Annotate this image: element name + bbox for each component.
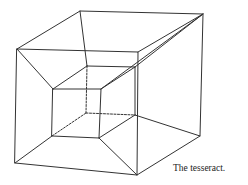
inner-edge-tl (53, 66, 87, 89)
inner-back-top (87, 66, 135, 67)
connector-front-tl (17, 49, 53, 89)
connector-front-bl (15, 136, 52, 163)
connector-back-br (135, 115, 200, 136)
connector-back-tr2 (135, 14, 203, 67)
inner-back-bottom-hidden (86, 113, 135, 115)
connector-front-br (99, 138, 137, 175)
outer-top-right-edge (138, 14, 203, 52)
connector-back-tl (80, 11, 87, 66)
tesseract-diagram (0, 0, 248, 185)
inner-edge-br (99, 115, 135, 138)
figure-caption: The tesseract. (173, 163, 225, 173)
inner-edge-bl-hidden (52, 113, 86, 136)
